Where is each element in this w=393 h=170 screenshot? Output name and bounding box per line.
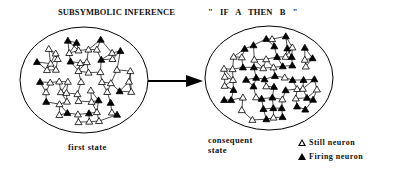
still-neuron-icon xyxy=(282,53,289,59)
firing-neuron-icon xyxy=(221,96,228,102)
firing-neuron-icon xyxy=(253,74,260,80)
firing-neuron-icon xyxy=(309,55,316,61)
still-neuron-icon xyxy=(93,46,100,52)
still-neuron-icon xyxy=(230,53,237,59)
firing-neuron-icon xyxy=(241,45,248,51)
firing-neuron-icon xyxy=(293,103,300,109)
firing-neuron-icon xyxy=(37,78,44,84)
still-neuron-icon xyxy=(238,107,245,113)
firing-neuron-icon xyxy=(269,94,276,100)
still-neuron-icon xyxy=(85,46,92,52)
still-neuron-icon xyxy=(313,86,320,92)
firing-neuron-icon xyxy=(117,48,124,54)
still-neuron-icon xyxy=(239,94,246,100)
firing-neuron-icon xyxy=(288,54,295,60)
still-neuron-icon xyxy=(104,89,111,95)
still-neuron-icon xyxy=(125,78,132,84)
still-neuron-icon xyxy=(221,65,228,71)
still-neuron-icon xyxy=(45,45,52,51)
still-neuron-icon xyxy=(253,94,260,100)
firing-neuron-icon xyxy=(289,62,296,68)
still-neuron-icon xyxy=(113,66,120,72)
still-neuron-icon xyxy=(52,50,59,56)
firing-neuron-icon xyxy=(250,42,257,48)
still-neuron-icon xyxy=(83,59,90,65)
firing-neuron-icon xyxy=(107,99,114,105)
still-neuron-icon xyxy=(221,82,228,88)
still-neuron-icon xyxy=(108,109,115,115)
still-neuron-icon xyxy=(75,119,82,125)
hollow-triangle-icon xyxy=(298,139,306,146)
firing-neuron-icon xyxy=(64,37,71,43)
still-neuron-icon xyxy=(78,78,85,84)
still-neuron-icon xyxy=(97,69,104,75)
firing-neuron-icon xyxy=(270,105,277,111)
still-neuron-icon xyxy=(289,44,296,50)
legend-firing-label: Firing neuron xyxy=(309,152,363,161)
still-neuron-icon xyxy=(64,78,71,84)
first-state-caption: first state xyxy=(68,142,107,152)
still-neuron-icon xyxy=(93,109,100,115)
firing-neuron-icon xyxy=(282,33,289,39)
still-neuron-icon xyxy=(43,67,50,73)
still-neuron-icon xyxy=(98,79,105,85)
still-neuron-icon xyxy=(64,98,71,104)
still-neuron-icon xyxy=(292,95,299,101)
firing-neuron-icon xyxy=(278,105,285,111)
first-state-network xyxy=(20,27,148,133)
firing-neuron-icon xyxy=(230,86,237,92)
firing-neuron-icon xyxy=(311,76,318,82)
still-neuron-icon xyxy=(56,78,63,84)
still-neuron-icon xyxy=(75,98,82,104)
firing-neuron-icon xyxy=(97,36,104,42)
firing-neuron-icon xyxy=(239,64,246,70)
transition-arrow-icon xyxy=(148,75,203,87)
legend-still-label: Still neuron xyxy=(309,138,355,147)
filled-triangle-icon xyxy=(298,153,306,160)
consequent-state-caption: consequent state xyxy=(208,135,268,155)
firing-neuron-icon xyxy=(67,58,74,64)
still-neuron-icon xyxy=(270,114,277,120)
firing-neuron-icon xyxy=(263,35,270,41)
still-neuron-icon xyxy=(87,87,94,93)
firing-neuron-icon xyxy=(43,98,50,104)
firing-neuron-icon xyxy=(279,114,286,120)
firing-neuron-icon xyxy=(274,53,281,59)
still-neuron-icon xyxy=(43,89,50,95)
firing-neuron-icon xyxy=(250,64,257,70)
still-neuron-icon xyxy=(263,83,270,89)
firing-neuron-icon xyxy=(271,73,278,79)
legend-still-neuron: Still neuron xyxy=(298,138,355,147)
firing-neuron-icon xyxy=(303,94,310,100)
still-neuron-icon xyxy=(251,56,258,62)
still-neuron-icon xyxy=(299,85,306,91)
firing-neuron-icon xyxy=(301,44,308,50)
legend-firing-neuron: Firing neuron xyxy=(298,152,363,161)
still-neuron-icon xyxy=(221,73,228,79)
firing-neuron-icon xyxy=(300,76,307,82)
still-neuron-icon xyxy=(128,88,135,94)
still-neuron-icon xyxy=(57,89,64,95)
consequent-state-network xyxy=(205,26,333,130)
firing-neuron-icon xyxy=(33,59,40,65)
